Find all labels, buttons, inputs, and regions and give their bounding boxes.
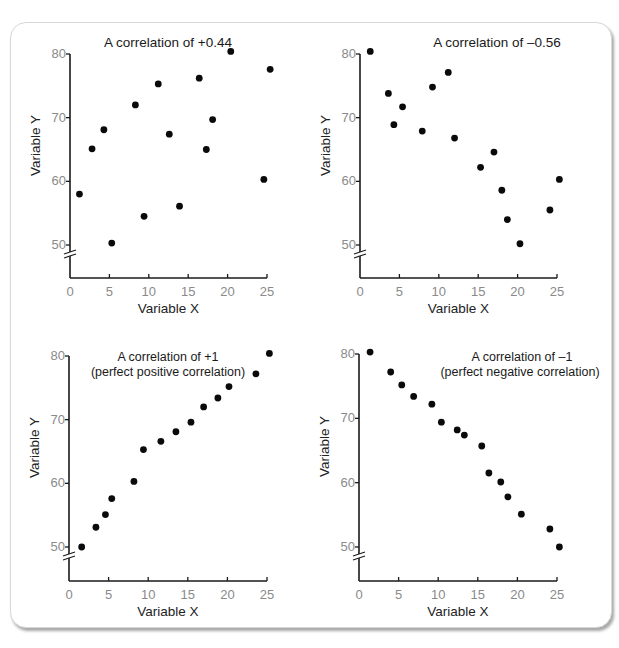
- panel-positive-044: A correlation of +0.44 50607080051015202…: [28, 35, 274, 316]
- data-point: [260, 176, 267, 183]
- data-point: [140, 446, 147, 453]
- x-tick-label: 15: [181, 284, 195, 299]
- data-point: [214, 395, 221, 402]
- data-point: [93, 524, 100, 531]
- data-point: [266, 350, 273, 357]
- x-tick-label: 25: [260, 587, 274, 602]
- data-point: [556, 176, 563, 183]
- x-tick-label: 25: [550, 284, 564, 299]
- y-tick-label: 50: [52, 237, 66, 252]
- x-tick-label: 5: [106, 284, 113, 299]
- panel-title: A correlation of +0.44: [104, 35, 232, 50]
- panel-title: A correlation of –1: [472, 350, 573, 364]
- y-axis-title: Variable Y: [317, 416, 332, 477]
- y-tick-label: 70: [52, 110, 66, 125]
- y-tick-label: 60: [51, 475, 65, 490]
- x-tick-label: 20: [220, 587, 234, 602]
- x-tick-label: 15: [471, 284, 485, 299]
- panel-title: A correlation of –0.56: [433, 35, 561, 50]
- data-point: [390, 121, 397, 128]
- x-tick-label: 0: [65, 587, 72, 602]
- data-point: [477, 164, 484, 171]
- data-point: [367, 48, 374, 55]
- data-point: [267, 66, 274, 73]
- y-tick-label: 60: [342, 173, 356, 188]
- data-point: [504, 493, 511, 500]
- data-point: [203, 146, 210, 153]
- y-tick-label: 80: [342, 46, 356, 61]
- x-tick-label: 25: [550, 587, 564, 602]
- data-point: [78, 544, 85, 551]
- data-point: [491, 149, 498, 156]
- y-tick-label: 70: [341, 410, 355, 425]
- x-tick-label: 10: [142, 284, 156, 299]
- data-point: [131, 478, 138, 485]
- data-point: [108, 240, 115, 247]
- data-point: [399, 103, 406, 110]
- data-point: [102, 511, 109, 518]
- data-point: [209, 116, 216, 123]
- x-tick-label: 20: [220, 284, 234, 299]
- x-tick-label: 0: [66, 284, 73, 299]
- x-tick-label: 5: [396, 284, 403, 299]
- x-tick-label: 10: [432, 284, 446, 299]
- correlation-figure: A correlation of +0.44 50607080051015202…: [0, 0, 619, 648]
- data-point: [454, 427, 461, 434]
- data-point: [517, 240, 524, 247]
- data-point: [546, 526, 553, 533]
- y-tick-label: 60: [341, 475, 355, 490]
- y-tick-label: 50: [342, 237, 356, 252]
- data-point: [176, 203, 183, 210]
- y-tick-label: 60: [52, 173, 66, 188]
- y-axis-title: Variable Y: [27, 417, 42, 478]
- x-tick-label: 15: [471, 587, 485, 602]
- y-tick-label: 80: [51, 348, 65, 363]
- panel-subtitle: (perfect positive correlation): [91, 365, 245, 379]
- data-point: [141, 213, 148, 220]
- data-point: [226, 383, 233, 390]
- x-tick-label: 15: [181, 587, 195, 602]
- data-point: [387, 369, 394, 376]
- data-point: [438, 419, 445, 426]
- panel-subtitle: (perfect negative correlation): [440, 365, 599, 379]
- x-tick-label: 25: [260, 284, 274, 299]
- data-point: [485, 470, 492, 477]
- data-point: [173, 428, 180, 435]
- data-point: [428, 401, 435, 408]
- y-tick-label: 70: [342, 110, 356, 125]
- x-tick-label: 20: [510, 284, 524, 299]
- data-point: [76, 191, 83, 198]
- x-axis-title: Variable X: [427, 604, 488, 619]
- x-tick-label: 5: [105, 587, 112, 602]
- data-point: [461, 432, 468, 439]
- data-point: [108, 495, 115, 502]
- data-point: [556, 544, 563, 551]
- data-point: [451, 135, 458, 142]
- data-point: [478, 443, 485, 450]
- x-tick-label: 10: [431, 587, 445, 602]
- data-point: [89, 145, 96, 152]
- y-tick-label: 50: [341, 539, 355, 554]
- data-point: [200, 404, 207, 411]
- data-point: [100, 126, 107, 133]
- data-point: [132, 102, 139, 109]
- data-point: [367, 349, 374, 356]
- data-point: [518, 511, 525, 518]
- data-point: [253, 370, 260, 377]
- data-point: [196, 75, 203, 82]
- data-point: [419, 128, 426, 135]
- panel-negative-056: A correlation of –0.56 50607080051015202…: [318, 35, 564, 316]
- data-point: [188, 419, 195, 426]
- data-point: [157, 438, 164, 445]
- panel-title: A correlation of +1: [117, 350, 218, 364]
- y-axis-title: Variable Y: [28, 115, 43, 176]
- x-tick-label: 0: [356, 284, 363, 299]
- x-axis-title: Variable X: [137, 604, 198, 619]
- data-point: [497, 479, 504, 486]
- data-point: [155, 81, 162, 88]
- x-tick-label: 0: [355, 587, 362, 602]
- y-tick-label: 80: [341, 346, 355, 361]
- data-point: [227, 48, 234, 55]
- x-tick-label: 10: [141, 587, 155, 602]
- data-point: [498, 187, 505, 194]
